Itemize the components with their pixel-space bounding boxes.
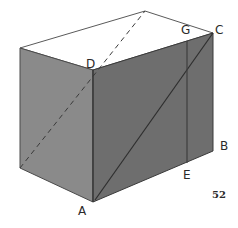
left-face bbox=[20, 48, 93, 202]
figure-number: 52 bbox=[212, 189, 226, 200]
cuboid-diagram: D G C B E A 52 bbox=[0, 0, 238, 228]
cuboid-figure-svg: D G C B E A 52 bbox=[0, 0, 238, 228]
label-g: G bbox=[181, 23, 190, 37]
label-a: A bbox=[78, 204, 87, 218]
label-d: D bbox=[86, 57, 95, 71]
label-c: C bbox=[215, 23, 223, 37]
label-e: E bbox=[183, 168, 191, 182]
label-b: B bbox=[220, 139, 228, 153]
